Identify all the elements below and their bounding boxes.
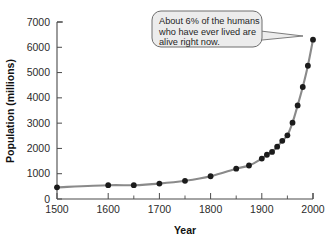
callout-line-1: About 6% of the humans bbox=[159, 16, 260, 26]
data-point bbox=[295, 103, 301, 109]
callout-line-2: who have ever lived are bbox=[158, 27, 256, 37]
data-point bbox=[305, 63, 311, 69]
population-growth-chart: 01000200030004000500060007000 1500160017… bbox=[0, 0, 336, 247]
data-point bbox=[264, 152, 270, 158]
x-axis-title: Year bbox=[174, 224, 196, 236]
x-axis-tick-labels: 150016001700180019002000 bbox=[45, 203, 325, 215]
x-tick-label: 1500 bbox=[45, 203, 69, 215]
y-axis-tick-labels: 01000200030004000500060007000 bbox=[27, 16, 51, 205]
callout-annotation: About 6% of the humans who have ever liv… bbox=[152, 11, 303, 47]
y-axis-title: Population (millions) bbox=[4, 59, 16, 163]
y-axis-ticks bbox=[57, 22, 62, 199]
data-point bbox=[208, 173, 214, 179]
chart-svg: 01000200030004000500060007000 1500160017… bbox=[0, 0, 336, 247]
data-point bbox=[279, 138, 285, 144]
x-tick-label: 1800 bbox=[199, 203, 223, 215]
data-point bbox=[274, 144, 280, 150]
data-point bbox=[246, 163, 252, 169]
data-point bbox=[157, 181, 163, 187]
y-tick-label: 1000 bbox=[27, 167, 51, 179]
axis-lines bbox=[57, 22, 313, 199]
data-point bbox=[54, 184, 60, 190]
data-point bbox=[259, 156, 265, 162]
data-point bbox=[131, 182, 137, 188]
x-tick-label: 1700 bbox=[148, 203, 172, 215]
data-line bbox=[57, 40, 313, 188]
data-point bbox=[105, 182, 111, 188]
data-point bbox=[290, 120, 296, 126]
callout-line-3: alive right now. bbox=[159, 37, 220, 47]
y-tick-label: 3000 bbox=[27, 117, 51, 129]
y-tick-label: 5000 bbox=[27, 66, 51, 78]
data-markers bbox=[54, 37, 316, 190]
x-tick-label: 1900 bbox=[250, 203, 274, 215]
data-point bbox=[300, 84, 306, 90]
data-point bbox=[233, 166, 239, 172]
data-point bbox=[310, 37, 316, 43]
y-tick-label: 7000 bbox=[27, 16, 51, 28]
y-tick-label: 2000 bbox=[27, 142, 51, 154]
x-tick-label: 1600 bbox=[97, 203, 121, 215]
x-tick-label: 2000 bbox=[301, 203, 325, 215]
data-point bbox=[285, 132, 291, 138]
y-tick-label: 4000 bbox=[27, 91, 51, 103]
y-tick-label: 6000 bbox=[27, 41, 51, 53]
data-point bbox=[269, 149, 275, 155]
data-point bbox=[182, 178, 188, 184]
